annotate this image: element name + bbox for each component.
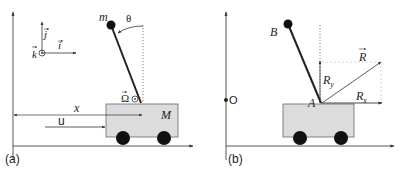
- pendulum-rod-b: [288, 24, 321, 103]
- cart-wheel-left: [116, 131, 130, 145]
- origin-point: [224, 98, 228, 102]
- u-label: u: [58, 114, 65, 128]
- r-label: R: [358, 50, 367, 64]
- pendulum-tip-b: [284, 20, 293, 29]
- reference-frame: j i k: [32, 22, 76, 60]
- pivot-label: A: [307, 96, 316, 110]
- cart-wheel-right: [157, 131, 171, 145]
- rx-label: Rx: [355, 89, 367, 105]
- cart-wheel-right-b: [334, 131, 348, 145]
- cart-mass-label: M: [160, 108, 172, 122]
- panel-a-caption: (a): [5, 152, 20, 166]
- panel-b: O B A R Ry Rx (b): [224, 12, 394, 166]
- ry-label: Ry: [322, 73, 334, 89]
- theta-arc-arrow: [118, 26, 143, 33]
- mass-label: m: [99, 10, 108, 24]
- origin-label: O: [229, 94, 238, 106]
- k-label: k: [32, 48, 38, 60]
- cart-wheel-left-b: [293, 131, 307, 145]
- panel-a: j i k θ m Ω M x u (a): [5, 10, 193, 166]
- panel-b-caption: (b): [228, 152, 243, 166]
- x-label: x: [73, 101, 80, 115]
- cart-pendulum-diagram: j i k θ m Ω M x u (a): [0, 0, 404, 175]
- omega-label: Ω: [121, 92, 129, 104]
- theta-label: θ: [126, 12, 131, 24]
- pendulum-mass: [107, 21, 116, 30]
- j-label: j: [42, 28, 47, 40]
- tip-label: B: [270, 25, 278, 39]
